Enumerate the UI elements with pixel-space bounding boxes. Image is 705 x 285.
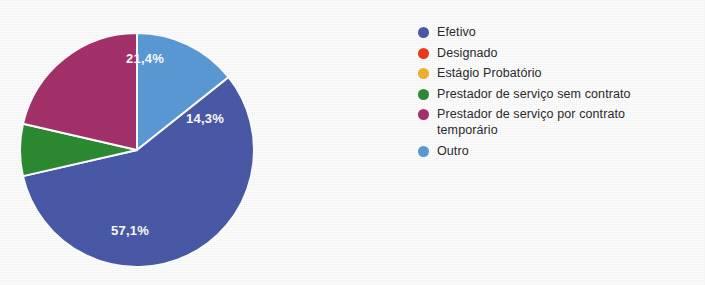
legend-color-swatch-icon	[418, 27, 429, 38]
chart-legend: EfetivoDesignadoEstágio ProbatórioPresta…	[418, 24, 693, 163]
legend-item[interactable]: Prestador de serviço sem contrato	[418, 86, 693, 102]
pie-slice-label: 14,3%	[186, 111, 224, 126]
legend-item-label: Prestador de serviço sem contrato	[437, 86, 631, 102]
legend-color-swatch-icon	[418, 89, 429, 100]
pie-slice-label: 57,1%	[111, 223, 149, 238]
legend-item[interactable]: Prestador de serviço por contrato tempor…	[418, 106, 693, 138]
legend-color-swatch-icon	[418, 109, 429, 120]
legend-item[interactable]: Outro	[418, 143, 693, 159]
legend-item-label: Outro	[437, 143, 469, 159]
legend-color-swatch-icon	[418, 146, 429, 157]
legend-item-label: Designado	[437, 45, 498, 61]
pie-chart-svg: 14,3%57,1%21,4%	[0, 0, 400, 285]
legend-color-swatch-icon	[418, 48, 429, 59]
legend-item-label: Efetivo	[437, 24, 476, 40]
legend-item-label: Prestador de serviço por contrato tempor…	[437, 106, 679, 138]
legend-color-swatch-icon	[418, 68, 429, 79]
legend-item[interactable]: Designado	[418, 45, 693, 61]
chart-screenshot: 14,3%57,1%21,4% EfetivoDesignadoEstágio …	[0, 0, 705, 285]
pie-slice-label: 21,4%	[126, 51, 164, 66]
legend-item-label: Estágio Probatório	[437, 65, 542, 81]
legend-item[interactable]: Estágio Probatório	[418, 65, 693, 81]
pie-chart: 14,3%57,1%21,4%	[0, 0, 400, 285]
legend-item[interactable]: Efetivo	[418, 24, 693, 40]
